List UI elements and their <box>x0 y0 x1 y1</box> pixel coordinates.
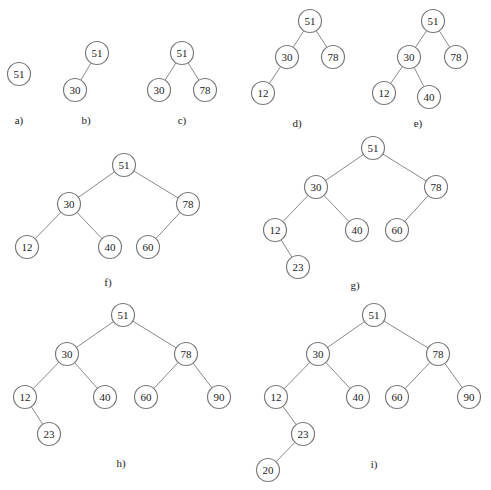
tree-node: 90 <box>208 386 231 409</box>
tree-edge <box>283 195 308 221</box>
node-value: 51 <box>14 68 25 80</box>
node-value: 51 <box>177 47 188 59</box>
tree-node: 51 <box>8 63 31 86</box>
tree-edge <box>75 363 98 389</box>
tree-node: 78 <box>194 79 217 102</box>
tree-node: 78 <box>177 193 200 216</box>
node-value: 40 <box>424 91 436 103</box>
tree-edge <box>269 67 280 84</box>
tree-edge <box>81 63 91 80</box>
tree-edge <box>188 63 199 80</box>
tree-edge <box>384 321 428 348</box>
tree-edge <box>439 31 450 48</box>
node-value: 78 <box>328 51 340 63</box>
subfigure-label: h) <box>116 457 126 470</box>
subfigure-label: i) <box>371 458 378 471</box>
tree-node: 12 <box>14 386 37 409</box>
tree-e: 5130781240e) <box>373 10 468 131</box>
tree-edge <box>165 63 176 80</box>
tree-node: 40 <box>346 219 369 242</box>
tree-node: 30 <box>307 343 330 366</box>
tree-b: 5130b) <box>64 42 109 128</box>
node-value: 12 <box>22 241 33 253</box>
tree-edge <box>415 31 426 48</box>
node-value: 30 <box>313 348 325 360</box>
tree-node: 30 <box>398 46 421 69</box>
tree-node: 30 <box>276 46 299 69</box>
tree-edge <box>327 322 364 348</box>
tree-edge <box>283 406 296 424</box>
tree-edge <box>276 442 295 462</box>
tree-node: 60 <box>386 386 409 409</box>
tree-node: 30 <box>148 79 171 102</box>
node-value: 30 <box>62 348 74 360</box>
tree-edge <box>293 31 304 48</box>
tree-edge <box>284 362 310 389</box>
node-value: 51 <box>119 159 130 171</box>
tree-node: 30 <box>56 343 79 366</box>
tree-node: 40 <box>347 386 370 409</box>
tree-h: 5130781240609023h) <box>14 304 231 471</box>
tree-edge <box>414 67 424 86</box>
tree-node: 12 <box>265 386 288 409</box>
tree-a: 51a) <box>8 63 31 128</box>
tree-node: 40 <box>418 86 441 109</box>
tree-node: 30 <box>64 79 87 102</box>
tree-node: 51 <box>113 154 136 177</box>
tree-node: 51 <box>112 304 135 327</box>
node-value: 12 <box>271 391 282 403</box>
subfigure-label: d) <box>292 117 302 130</box>
subfigure-label: e) <box>414 117 423 130</box>
tree-node: 12 <box>16 236 39 259</box>
node-value: 90 <box>214 391 226 403</box>
tree-node: 30 <box>58 193 81 216</box>
tree-edge <box>405 362 430 388</box>
node-value: 30 <box>282 51 294 63</box>
tree-node: 12 <box>252 82 275 105</box>
node-value: 60 <box>141 391 153 403</box>
subfigure-label: b) <box>81 114 91 127</box>
tree-node: 78 <box>427 343 450 366</box>
tree-edge <box>31 407 42 425</box>
node-value: 23 <box>44 428 56 440</box>
node-value: 60 <box>392 224 404 236</box>
tree-node: 12 <box>264 219 287 242</box>
tree-d: 51307812d) <box>252 10 345 131</box>
node-value: 20 <box>263 464 275 476</box>
tree-node: 51 <box>422 10 445 33</box>
tree-node: 23 <box>292 423 315 446</box>
tree-node: 12 <box>373 82 396 105</box>
node-value: 51 <box>118 309 129 321</box>
tree-g: 51307812406023g) <box>264 137 448 293</box>
tree-edge <box>325 154 363 180</box>
tree-edge <box>391 66 403 83</box>
node-value: 78 <box>183 198 195 210</box>
tree-edge <box>77 212 102 238</box>
node-value: 40 <box>105 241 117 253</box>
tree-node: 30 <box>305 176 328 199</box>
tree-node: 51 <box>299 10 322 33</box>
tree-node: 51 <box>363 304 386 327</box>
node-value: 12 <box>270 224 281 236</box>
tree-node: 40 <box>99 236 122 259</box>
tree-edge <box>445 363 463 387</box>
node-value: 40 <box>353 391 365 403</box>
node-value: 60 <box>143 241 155 253</box>
subfigure-label: f) <box>104 276 112 289</box>
node-value: 23 <box>293 261 305 273</box>
tree-edge <box>193 363 212 388</box>
tree-edge <box>33 362 59 389</box>
tree-edge <box>156 212 180 238</box>
tree-node: 23 <box>287 256 310 279</box>
subfigure-label: c) <box>178 114 187 127</box>
node-value: 51 <box>368 142 379 154</box>
node-value: 60 <box>392 391 404 403</box>
node-value: 30 <box>70 84 82 96</box>
bst-diagram-canvas: 51a)5130b)513078c)51307812d)5130781240e)… <box>0 0 491 490</box>
node-value: 12 <box>20 391 31 403</box>
tree-edge <box>133 321 176 348</box>
tree-node: 20 <box>257 459 280 482</box>
tree-edge <box>76 322 113 348</box>
tree-node: 60 <box>135 386 158 409</box>
tree-node: 51 <box>86 42 109 65</box>
